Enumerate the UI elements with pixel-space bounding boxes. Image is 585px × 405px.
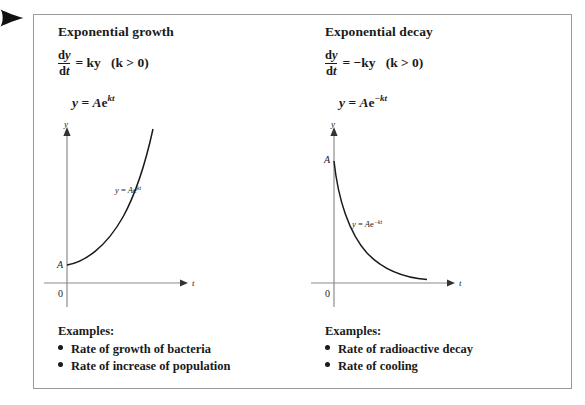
pointer-arrow — [0, 8, 26, 28]
origin-label: 0 — [58, 288, 63, 299]
list-item: Rate of cooling — [325, 359, 473, 374]
bullet-icon — [58, 362, 63, 367]
curve-exponential-growth — [67, 129, 153, 265]
equation-right-expression: = ky — [76, 55, 101, 70]
equation-right-side: = −ky (k > 0) — [343, 55, 424, 71]
bullet-icon — [58, 345, 63, 350]
fraction-denominator: dt — [325, 63, 337, 78]
equation-derivative-decay: dy dt = −ky (k > 0) — [324, 49, 423, 78]
origin-label: 0 — [325, 288, 330, 299]
x-axis-label: t — [459, 278, 462, 288]
y-axis-label: y — [330, 121, 335, 129]
equation-solution-growth: y = Aekt — [72, 93, 114, 111]
column-exponential-growth: Exponential growth dy dt = ky (k > 0) y … — [34, 15, 301, 388]
x-axis-arrowhead-icon — [180, 279, 188, 286]
list-item-label: Rate of increase of population — [71, 359, 231, 374]
equation-right-side: = ky (k > 0) — [76, 55, 149, 71]
heading-exponential-growth: Exponential growth — [58, 24, 174, 40]
x-axis-label: t — [192, 278, 195, 288]
equation-condition: (k > 0) — [386, 55, 424, 70]
y-intercept-label: A — [323, 154, 331, 165]
solution-exponent: −kt — [374, 93, 386, 103]
list-item-label: Rate of growth of bacteria — [71, 342, 211, 357]
examples-title: Examples: — [58, 324, 231, 339]
y-axis-label: y — [63, 121, 68, 129]
equation-derivative-growth: dy dt = ky (k > 0) — [57, 49, 149, 78]
y-intercept-label: A — [56, 259, 64, 270]
list-item: Rate of growth of bacteria — [58, 342, 231, 357]
summary-panel: Exponential growth dy dt = ky (k > 0) y … — [33, 14, 572, 389]
curve-label-decay: y = Ae−kt — [351, 219, 383, 229]
equation-solution-decay: y = Ae−kt — [339, 93, 387, 111]
equation-right-expression: = −ky — [343, 55, 376, 70]
heading-exponential-decay: Exponential decay — [325, 24, 433, 40]
bullet-icon — [325, 362, 330, 367]
solution-lhs: y = — [72, 95, 89, 110]
solution-base: Ae — [359, 95, 374, 110]
solution-lhs: y = — [339, 95, 356, 110]
fraction-denominator: dt — [58, 63, 70, 78]
curve-label-growth: y = Aekt — [114, 185, 141, 195]
right-arrowhead-icon — [0, 8, 26, 28]
fraction-numerator: dy — [324, 49, 339, 63]
fraction-dy-dt: dy dt — [57, 49, 72, 78]
equation-condition: (k > 0) — [111, 55, 149, 70]
list-item: Rate of increase of population — [58, 359, 231, 374]
list-item-label: Rate of cooling — [338, 359, 418, 374]
solution-base: Ae — [92, 95, 107, 110]
fraction-numerator: dy — [57, 49, 72, 63]
bullet-icon — [325, 345, 330, 350]
list-item-label: Rate of radioactive decay — [338, 342, 473, 357]
examples-title: Examples: — [325, 324, 473, 339]
graph-exponential-decay: y t A 0 y = Ae−kt — [307, 121, 557, 311]
examples-decay: Examples: Rate of radioactive decay Rate… — [325, 324, 473, 374]
fraction-dy-dt: dy dt — [324, 49, 339, 78]
solution-exponent: kt — [107, 93, 114, 103]
graph-exponential-growth: y t A 0 y = Aekt — [40, 121, 290, 311]
column-exponential-decay: Exponential decay dy dt = −ky (k > 0) y … — [301, 15, 571, 388]
x-axis-arrowhead-icon — [447, 279, 455, 286]
examples-growth: Examples: Rate of growth of bacteria Rat… — [58, 324, 231, 374]
list-item: Rate of radioactive decay — [325, 342, 473, 357]
